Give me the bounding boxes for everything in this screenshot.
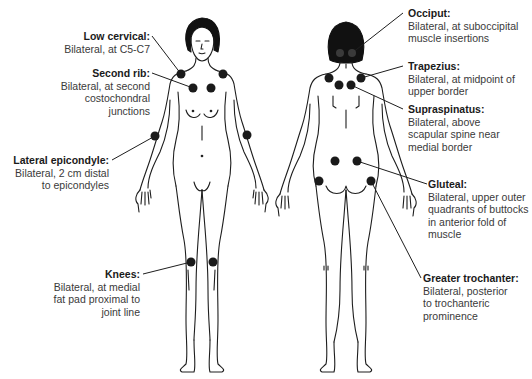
label-occiput: Occiput: Bilateral, at suboccipital musc… bbox=[408, 7, 518, 45]
label-title: Low cervical: bbox=[64, 30, 150, 43]
label-title: Gluteal: bbox=[428, 178, 528, 191]
back-figure bbox=[276, 22, 416, 372]
label-desc: Bilateral, upper outer quadrants of butt… bbox=[428, 191, 528, 241]
trapezius-right-dot bbox=[357, 74, 366, 83]
gluteal-right-dot bbox=[353, 157, 362, 166]
second-rib-right-dot bbox=[207, 84, 216, 93]
label-title: Knees: bbox=[54, 268, 140, 281]
label-title: Second rib: bbox=[61, 67, 150, 80]
greater-trochanter-left-dot bbox=[315, 177, 324, 186]
label-greater-trochanter: Greater trochanter: Bilateral, posterior… bbox=[423, 272, 519, 322]
tender-point-dots bbox=[151, 49, 376, 267]
tender-points-diagram: Low cervical: Bilateral, at C5-C7 Second… bbox=[0, 0, 532, 379]
label-desc: Bilateral, at midpoint of upper border bbox=[408, 73, 515, 98]
label-desc: Bilateral, posterior to trochanteric pro… bbox=[423, 285, 519, 323]
label-lateral-epicondyle: Lateral epicondyle: Bilateral, 2 cm dist… bbox=[13, 154, 109, 192]
lateral-epicondyle-right-dot bbox=[243, 131, 252, 140]
label-title: Supraspinatus: bbox=[408, 103, 500, 116]
knee-left-dot bbox=[187, 258, 196, 267]
supraspinatus-right-dot bbox=[347, 81, 356, 90]
label-gluteal: Gluteal: Bilateral, upper outer quadrant… bbox=[428, 178, 528, 241]
occiput-right-dot bbox=[348, 49, 356, 57]
label-supraspinatus: Supraspinatus: Bilateral, above scapular… bbox=[408, 103, 500, 153]
greater-trochanter-right-dot bbox=[367, 177, 376, 186]
label-desc: Bilateral, above scapular spine near med… bbox=[408, 116, 500, 154]
label-title: Occiput: bbox=[408, 7, 518, 20]
supraspinatus-left-dot bbox=[335, 81, 344, 90]
label-second-rib: Second rib: Bilateral, at second costoch… bbox=[61, 67, 150, 117]
low-cervical-right-dot bbox=[219, 70, 228, 79]
label-desc: Bilateral, at C5-C7 bbox=[64, 43, 150, 56]
lateral-epicondyle-left-dot bbox=[151, 132, 160, 141]
gluteal-left-dot bbox=[331, 157, 340, 166]
label-desc: Bilateral, at second costochondral junct… bbox=[61, 80, 150, 118]
label-title: Greater trochanter: bbox=[423, 272, 519, 285]
knee-right-dot bbox=[209, 258, 218, 267]
label-desc: Bilateral, at medial fat pad proximal to… bbox=[54, 281, 140, 319]
label-title: Trapezius: bbox=[408, 60, 515, 73]
label-knees: Knees: Bilateral, at medial fat pad prox… bbox=[54, 268, 140, 318]
trapezius-left-dot bbox=[325, 74, 334, 83]
label-low-cervical: Low cervical: Bilateral, at C5-C7 bbox=[64, 30, 150, 55]
second-rib-left-dot bbox=[189, 84, 198, 93]
label-trapezius: Trapezius: Bilateral, at midpoint of upp… bbox=[408, 60, 515, 98]
label-title: Lateral epicondyle: bbox=[13, 154, 109, 167]
leader-lines bbox=[112, 13, 427, 278]
front-figure bbox=[136, 18, 268, 372]
label-desc: Bilateral, at suboccipital muscle insert… bbox=[408, 20, 518, 45]
low-cervical-left-dot bbox=[177, 70, 186, 79]
occiput-left-dot bbox=[336, 49, 344, 57]
label-desc: Bilateral, 2 cm distal to epicondyles bbox=[13, 167, 109, 192]
